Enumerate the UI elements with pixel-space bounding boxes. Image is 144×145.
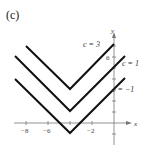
x-axis bbox=[14, 121, 130, 125]
x-axis-arrow-icon bbox=[126, 121, 132, 125]
tick-m6: −6 bbox=[43, 127, 51, 135]
chart: c = 3 c = 1 c = −1 y x −8 −6 −2 6 bbox=[0, 0, 144, 145]
tick-m2: −2 bbox=[87, 127, 95, 135]
label-cm1: c = −1 bbox=[112, 85, 134, 94]
x-axis-label: x bbox=[133, 120, 138, 128]
series-c-3 bbox=[26, 44, 114, 89]
label-c3: c = 3 bbox=[83, 40, 100, 49]
label-c1: c = 1 bbox=[122, 59, 139, 68]
tick-m8: −8 bbox=[21, 127, 29, 135]
tick-6: 6 bbox=[106, 54, 110, 62]
series-c-1 bbox=[15, 56, 125, 111]
